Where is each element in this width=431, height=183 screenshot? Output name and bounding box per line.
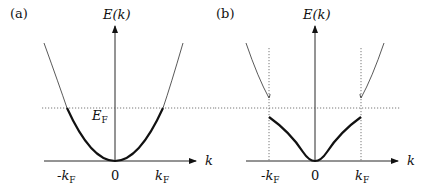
panel-b-upper-band-right xyxy=(361,43,384,98)
panel-b-tick-kf: kF xyxy=(355,168,369,183)
panel-b-label: (b) xyxy=(216,6,234,21)
band-structure-figure: (a) E(k) k EF -kF 0 kF (b) E(k) k xyxy=(0,0,431,183)
panel-a: (a) E(k) k EF -kF 0 kF xyxy=(10,6,215,183)
panel-a-tick-kf: kF xyxy=(155,168,169,183)
panel-a-fermi-level-label: EF xyxy=(91,108,108,125)
panel-b-upper-band-left xyxy=(246,43,269,98)
panel-b-k-axis-label: k xyxy=(407,153,415,168)
panel-a-energy-axis-label: E(k) xyxy=(102,7,131,22)
panel-b-energy-axis-label: E(k) xyxy=(302,7,331,22)
panel-a-k-axis-label: k xyxy=(205,153,213,168)
panel-a-label: (a) xyxy=(10,6,28,21)
panel-b-tick-minus-kf: -kF xyxy=(261,168,280,183)
panel-a-dispersion-upper-right xyxy=(163,43,183,108)
panel-a-tick-minus-kf: -kF xyxy=(57,168,76,183)
panel-a-tick-zero: 0 xyxy=(111,168,119,183)
panel-b-tick-zero: 0 xyxy=(311,168,319,183)
panel-a-dispersion-upper-left xyxy=(44,43,67,108)
panel-b: (b) E(k) k -kF 0 kF xyxy=(215,6,415,183)
